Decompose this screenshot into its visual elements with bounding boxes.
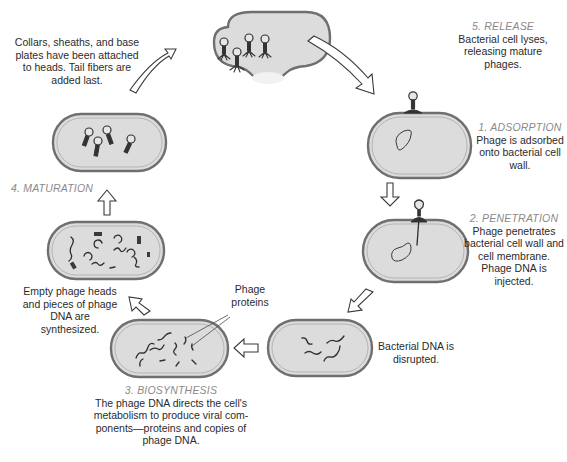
synthesized-parts-caption: Empty phage heads and pieces of phage DN… (20, 285, 120, 335)
arrow-disrupted-to-biosynthesis (234, 339, 258, 357)
cell-release (214, 12, 330, 84)
dna-disrupted-caption: Bacterial DNA is disrupted. (376, 340, 456, 365)
assembly-text: Collars, sheaths, and base plates have b… (14, 36, 140, 86)
adsorption-caption: 1. ADSORPTION Phage is adsorbed onto bac… (470, 121, 567, 171)
maturation-caption: 4. MATURATION (4, 182, 100, 195)
cell-maturation (53, 114, 166, 171)
phage-proteins-label: Phage proteins (226, 283, 274, 308)
biosynthesis-caption: 3. BIOSYNTHESIS The phage DNA directs th… (86, 384, 256, 447)
penetration-caption: 2. PENETRATION Phage penetrates bacteria… (462, 212, 566, 287)
arrow-adsorption-to-penetration (381, 183, 399, 206)
synthesized-parts-text: Empty phage heads and pieces of phage DN… (20, 285, 120, 335)
biosynthesis-text: The phage DNA directs the cell's metabol… (86, 397, 256, 447)
penetration-title: 2. PENETRATION (462, 212, 566, 225)
arrow-release-to-adsorption (308, 36, 374, 94)
release-title: 5. RELEASE (454, 20, 552, 33)
arrow-biosynthesis-to-parts (129, 297, 150, 315)
assembly-caption: Collars, sheaths, and base plates have b… (14, 36, 140, 86)
cell-penetration (363, 200, 468, 282)
adsorption-title: 1. ADSORPTION (470, 121, 567, 134)
arrow-penetration-to-disrupted (348, 289, 373, 312)
phage-proteins-callout: Phage proteins (226, 283, 274, 308)
cell-adsorption (368, 92, 471, 178)
arrow-parts-to-maturation (98, 190, 116, 215)
dna-disrupted-text: Bacterial DNA is disrupted. (376, 340, 456, 365)
cell-synthesized-parts (48, 222, 164, 279)
adsorbed-phage-icon (404, 92, 422, 113)
release-caption: 5. RELEASE Bacterial cell lyses, releasi… (454, 20, 552, 70)
penetration-text: Phage penetrates bacterial cell wall and… (462, 225, 566, 288)
biosynthesis-title: 3. BIOSYNTHESIS (86, 384, 256, 397)
maturation-title: 4. MATURATION (4, 182, 100, 195)
adsorption-text: Phage is adsorbed onto bacterial cell wa… (470, 134, 567, 172)
cell-biosynthesis (111, 320, 228, 377)
cell-dna-disrupted (268, 320, 372, 376)
release-text: Bacterial cell lyses, releasing mature p… (454, 33, 552, 71)
